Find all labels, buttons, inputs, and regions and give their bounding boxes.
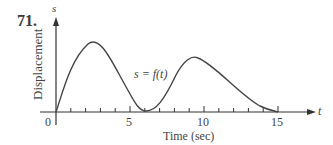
x-tick-label-0: 0 bbox=[45, 115, 51, 130]
curve-label: s = f(t) bbox=[134, 67, 167, 82]
x-axis-symbol: t bbox=[318, 104, 321, 119]
x-axis-ticks bbox=[71, 106, 278, 112]
y-axis-arrow-icon bbox=[53, 17, 59, 26]
x-axis-label: Time (sec) bbox=[163, 129, 214, 144]
x-tick-label-15: 15 bbox=[271, 115, 283, 130]
curve-label-text: s = f(t) bbox=[134, 67, 167, 81]
x-axis-arrow-icon bbox=[307, 109, 316, 115]
y-axis-label: Displacement bbox=[30, 29, 46, 100]
x-tick-label-10: 10 bbox=[197, 115, 209, 130]
y-axis-symbol: s bbox=[52, 2, 56, 14]
x-tick-label-5: 5 bbox=[126, 115, 132, 130]
